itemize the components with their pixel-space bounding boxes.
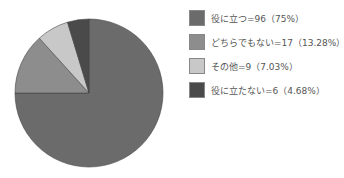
- legend-swatch: [189, 10, 205, 26]
- legend-item-neither: どちらでもない=17（13.28%）: [189, 30, 344, 54]
- legend-label: その他=9（7.03%）: [211, 60, 298, 73]
- pie-chart: [0, 0, 180, 178]
- legend-item-other: その他=9（7.03%）: [189, 54, 344, 78]
- legend: 役に立つ=96（75%） どちらでもない=17（13.28%） その他=9（7.…: [189, 6, 344, 102]
- legend-label: 役に立つ=96（75%）: [211, 12, 304, 25]
- legend-swatch: [189, 34, 205, 50]
- legend-item-useful: 役に立つ=96（75%）: [189, 6, 344, 30]
- legend-swatch: [189, 82, 205, 98]
- legend-item-not-useful: 役に立たない=6（4.68%）: [189, 78, 344, 102]
- legend-label: どちらでもない=17（13.28%）: [211, 36, 344, 49]
- legend-swatch: [189, 58, 205, 74]
- legend-label: 役に立たない=6（4.68%）: [211, 84, 325, 97]
